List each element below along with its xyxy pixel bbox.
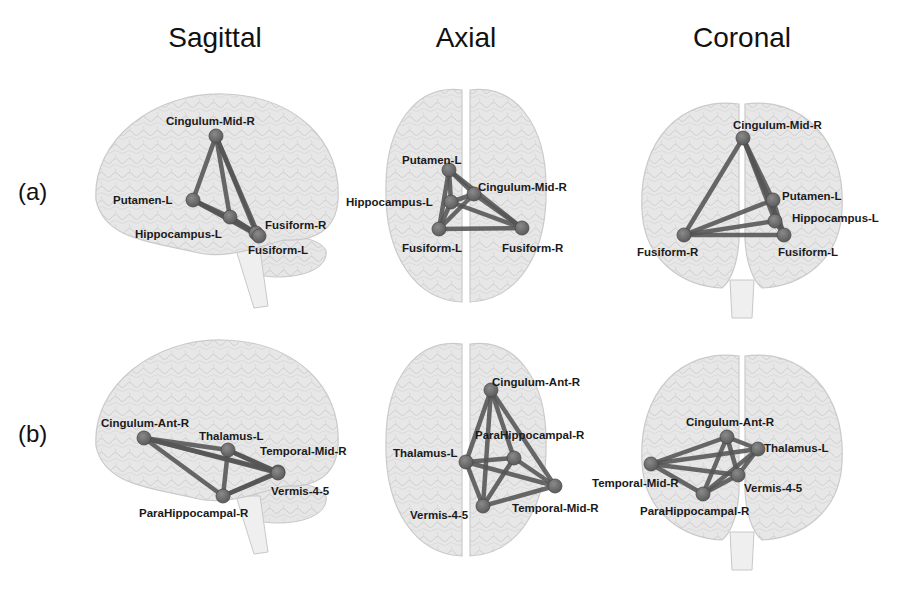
region-node: [766, 193, 780, 207]
region-node: [252, 229, 266, 243]
region-label: Fusiform-R: [265, 219, 327, 231]
region-label: Hippocampus-L: [792, 212, 879, 224]
region-label: Thalamus-L: [199, 430, 264, 442]
region-label: Cingulum-Mid-R: [166, 115, 255, 127]
region-label: Hippocampus-L: [135, 228, 222, 240]
brain-network-figure: Cingulum-Mid-RPutamen-LHippocampus-LFusi…: [0, 0, 914, 604]
region-node: [768, 214, 782, 228]
region-label: Cingulum-Ant-R: [492, 376, 581, 388]
region-node: [736, 131, 750, 145]
region-label: ParaHippocampal-R: [640, 505, 750, 517]
region-label: Cingulum-Mid-R: [478, 181, 567, 193]
region-node: [677, 228, 691, 242]
brainstem-shape: [730, 532, 754, 570]
region-node: [223, 210, 237, 224]
hemisphere-shape: [642, 103, 739, 288]
region-label: Temporal-Mid-R: [260, 445, 347, 457]
region-node: [221, 443, 235, 457]
region-node: [186, 193, 200, 207]
region-node: [515, 221, 529, 235]
region-label: Hippocampus-L: [346, 196, 433, 208]
region-node: [751, 442, 765, 456]
region-label: Fusiform-L: [248, 244, 308, 256]
region-node: [444, 195, 458, 209]
region-node: [548, 479, 562, 493]
region-label: Cingulum-Mid-R: [733, 119, 822, 131]
region-label: Cingulum-Ant-R: [686, 416, 775, 428]
region-label: Cingulum-Ant-R: [101, 417, 190, 429]
region-label: Putamen-L: [782, 190, 841, 202]
region-label: ParaHippocampal-R: [139, 507, 249, 519]
region-label: ParaHippocampal-R: [475, 429, 585, 441]
region-node: [720, 430, 734, 444]
region-label: Fusiform-R: [502, 242, 564, 254]
region-node: [271, 466, 285, 480]
region-node: [476, 499, 490, 513]
region-node: [731, 468, 745, 482]
region-node: [432, 222, 446, 236]
region-label: Vermis-4-5: [271, 485, 330, 497]
region-label: Temporal-Mid-R: [512, 502, 599, 514]
region-label: Putamen-L: [402, 154, 461, 166]
region-node: [696, 487, 710, 501]
region-node: [777, 228, 791, 242]
region-label: Vermis-4-5: [744, 482, 803, 494]
region-label: Vermis-4-5: [410, 509, 469, 521]
region-label: Fusiform-R: [637, 246, 699, 258]
region-label: Fusiform-L: [778, 246, 838, 258]
region-node: [459, 455, 473, 469]
region-label: Thalamus-L: [764, 442, 829, 454]
region-label: Fusiform-L: [402, 242, 462, 254]
brainstem-shape: [730, 280, 754, 318]
region-node: [507, 451, 521, 465]
region-node: [644, 457, 658, 471]
region-node: [216, 489, 230, 503]
region-node: [209, 129, 223, 143]
region-node: [137, 431, 151, 445]
region-label: Temporal-Mid-R: [592, 477, 679, 489]
connection-edge: [439, 228, 522, 229]
region-label: Putamen-L: [113, 194, 172, 206]
region-label: Thalamus-L: [393, 447, 458, 459]
